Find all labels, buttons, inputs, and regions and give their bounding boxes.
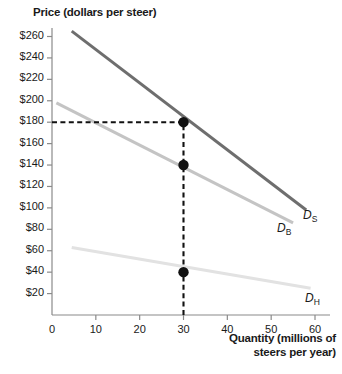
y-tick-label: $60	[0, 243, 44, 255]
y-tick-label: $140	[0, 157, 44, 169]
data-point-d-s	[178, 117, 188, 127]
curve-label-ds: DS	[303, 208, 317, 224]
y-tick-label: $260	[0, 29, 44, 41]
demand-curve-b	[56, 103, 293, 223]
curve-label-db-base: D	[277, 221, 286, 235]
curve-label-db-sub: B	[286, 227, 292, 237]
y-tick-label: $20	[0, 286, 44, 298]
y-tick-label: $80	[0, 221, 44, 233]
curve-label-dh-base: D	[305, 291, 314, 305]
y-tick-label: $100	[0, 200, 44, 212]
x-tick-marks	[96, 315, 315, 320]
y-tick-label: $160	[0, 136, 44, 148]
guide-lines	[52, 122, 184, 315]
x-axis-title-line1: Quantity (millions of	[229, 332, 336, 344]
y-tick-marks	[47, 37, 52, 294]
curve-label-db: DB	[277, 221, 291, 237]
y-tick-label: $180	[0, 114, 44, 126]
x-axis-title-line2: steers per year)	[254, 346, 336, 358]
curve-label-ds-sub: S	[312, 214, 318, 224]
curve-label-dh: DH	[305, 291, 320, 307]
data-point-d-h	[178, 267, 188, 277]
y-tick-label: $200	[0, 93, 44, 105]
y-tick-label: $40	[0, 264, 44, 276]
data-point-d-b	[178, 160, 188, 170]
demand-curve-h	[72, 248, 311, 289]
x-axis-title: Quantity (millions of steers per year)	[156, 331, 336, 359]
x-tick-label: 10	[81, 323, 111, 335]
x-tick-label: 0	[37, 323, 67, 335]
demand-curve-chart: Price (dollars per steer) $20$40$60$80$1…	[0, 0, 342, 374]
x-tick-label: 20	[125, 323, 155, 335]
demand-curve-s	[72, 31, 307, 210]
curve-label-dh-sub: H	[314, 297, 320, 307]
plot-area	[0, 0, 342, 374]
y-tick-label: $220	[0, 71, 44, 83]
y-tick-label: $240	[0, 50, 44, 62]
y-tick-label: $120	[0, 178, 44, 190]
curve-label-ds-base: D	[303, 208, 312, 222]
